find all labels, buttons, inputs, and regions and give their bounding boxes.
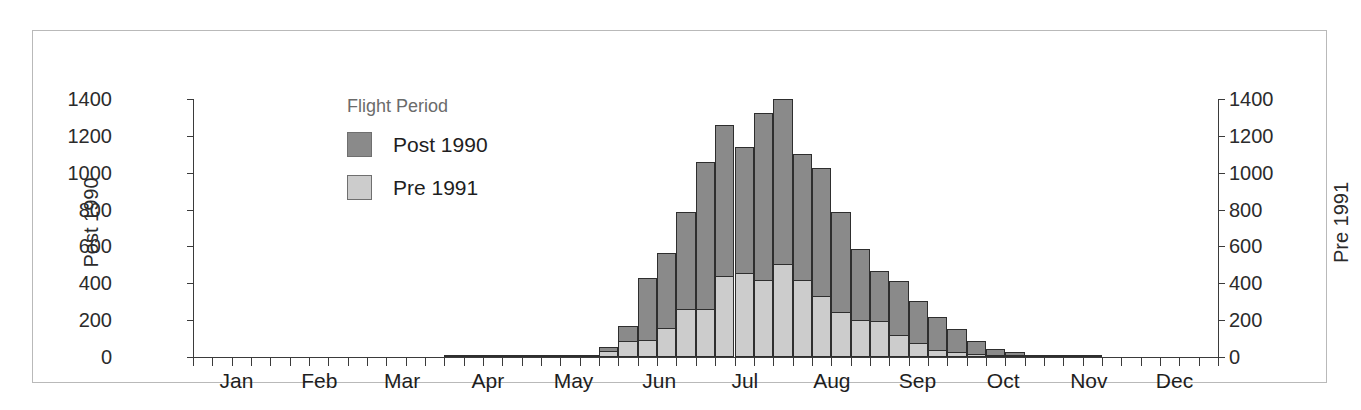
x-axis-month-label: Jan xyxy=(197,369,277,392)
x-axis-tick xyxy=(1218,358,1219,366)
x-axis-tick xyxy=(754,358,755,366)
bar-pre-1991 xyxy=(889,335,908,357)
x-axis-tick xyxy=(270,358,271,366)
right-axis-tick-label: 0 xyxy=(1229,347,1240,367)
x-axis-month-label: Jun xyxy=(619,369,699,392)
x-axis-tick xyxy=(290,358,291,366)
bar-pre-1991 xyxy=(812,296,831,357)
x-axis-tick xyxy=(1160,358,1161,366)
right-axis-title: Pre 1991 xyxy=(1330,143,1353,303)
left-axis-line xyxy=(193,99,194,358)
legend-title: Flight Period xyxy=(347,97,488,115)
right-axis-tick-label: 1400 xyxy=(1229,89,1274,109)
x-axis-tick xyxy=(696,358,697,366)
bar-pre-1991 xyxy=(831,312,850,357)
right-axis-tick-label: 200 xyxy=(1229,310,1262,330)
x-axis-tick xyxy=(232,358,233,366)
x-axis-month-label: Apr xyxy=(448,369,528,392)
x-axis-tick xyxy=(1141,358,1142,366)
x-axis-month-label: May xyxy=(534,369,614,392)
x-axis-tick xyxy=(793,358,794,366)
x-axis-tick xyxy=(1063,358,1064,366)
x-axis-tick xyxy=(522,358,523,366)
bar-pre-1991 xyxy=(851,320,870,357)
bar-pre-1991 xyxy=(773,264,792,357)
x-axis-tick xyxy=(386,358,387,366)
left-axis-tick-label: 200 xyxy=(79,310,112,330)
x-axis-tick xyxy=(193,358,194,366)
x-axis-tick xyxy=(483,358,484,366)
bar-pre-1991 xyxy=(754,280,773,357)
x-axis-tick xyxy=(715,358,716,366)
legend-label-pre-1991: Pre 1991 xyxy=(393,177,478,198)
left-axis-tick-label: 0 xyxy=(101,347,112,367)
left-axis-tick-label: 1400 xyxy=(68,89,113,109)
x-axis-tick xyxy=(735,358,736,366)
x-axis-month-label: Sep xyxy=(878,369,958,392)
legend-swatch-post-1990-icon xyxy=(347,132,372,157)
right-axis-tick xyxy=(1219,320,1225,321)
x-axis-tick xyxy=(502,358,503,366)
x-axis-tick xyxy=(889,358,890,366)
bar-pre-1991 xyxy=(638,340,657,357)
bar-pre-1991 xyxy=(676,309,695,357)
right-axis-tick-label: 400 xyxy=(1229,273,1262,293)
x-axis-tick xyxy=(348,358,349,366)
x-axis-tick xyxy=(1025,358,1026,366)
x-axis-tick xyxy=(1044,358,1045,366)
x-axis-month-label: Feb xyxy=(279,369,359,392)
x-axis-tick xyxy=(947,358,948,366)
x-axis-tick xyxy=(812,358,813,366)
bar-pre-1991 xyxy=(793,280,812,357)
legend-swatch-pre-1991-icon xyxy=(347,175,372,200)
x-axis-tick xyxy=(541,358,542,366)
x-axis-line xyxy=(193,357,1219,358)
right-axis-tick-label: 800 xyxy=(1229,200,1262,220)
bar-pre-1991 xyxy=(735,273,754,357)
x-axis-tick xyxy=(367,358,368,366)
right-axis-tick xyxy=(1219,136,1225,137)
x-axis-month-label: Aug xyxy=(792,369,872,392)
legend-label-post-1990: Post 1990 xyxy=(393,134,488,155)
x-axis-tick xyxy=(599,358,600,366)
legend: Flight Period Post 1990 Pre 1991 xyxy=(347,97,488,218)
x-axis-tick xyxy=(986,358,987,366)
x-axis-tick xyxy=(580,358,581,366)
x-axis-tick xyxy=(638,358,639,366)
x-axis-tick xyxy=(560,358,561,366)
x-axis-tick xyxy=(1083,358,1084,366)
x-axis-tick xyxy=(444,358,445,366)
x-axis-tick xyxy=(425,358,426,366)
right-axis-tick xyxy=(1219,99,1225,100)
x-axis-tick xyxy=(831,358,832,366)
x-axis-month-label: Mar xyxy=(362,369,442,392)
x-axis-tick xyxy=(1179,358,1180,366)
left-axis-tick-label: 1200 xyxy=(68,126,113,146)
x-axis-month-label: Jul xyxy=(705,369,785,392)
x-axis-tick xyxy=(1102,358,1103,366)
x-axis-tick xyxy=(967,358,968,366)
legend-item-post-1990[interactable]: Post 1990 xyxy=(347,132,488,157)
x-axis-tick xyxy=(1199,358,1200,366)
bar-pre-1991 xyxy=(618,341,637,357)
bar-pre-1991 xyxy=(696,309,715,357)
right-axis-line xyxy=(1218,99,1219,358)
right-axis-tick xyxy=(1219,283,1225,284)
x-axis-tick xyxy=(870,358,871,366)
legend-item-pre-1991[interactable]: Pre 1991 xyxy=(347,175,488,200)
x-axis-month-label: Oct xyxy=(963,369,1043,392)
left-axis-tick-label: 800 xyxy=(79,200,112,220)
right-axis-tick xyxy=(1219,246,1225,247)
bar-pre-1991 xyxy=(928,350,947,357)
x-axis-tick xyxy=(773,358,774,366)
figure-frame: Post 1990 Pre 1991 020040060080010001200… xyxy=(32,30,1327,383)
x-axis-tick xyxy=(909,358,910,366)
x-axis-tick xyxy=(251,358,252,366)
right-axis-tick-label: 1000 xyxy=(1229,163,1274,183)
figure-container: Post 1990 Pre 1991 020040060080010001200… xyxy=(0,0,1361,410)
x-axis-tick xyxy=(1121,358,1122,366)
x-axis-tick xyxy=(309,358,310,366)
x-axis-tick xyxy=(464,358,465,366)
x-axis-month-label: Nov xyxy=(1049,369,1129,392)
x-axis-tick xyxy=(657,358,658,366)
